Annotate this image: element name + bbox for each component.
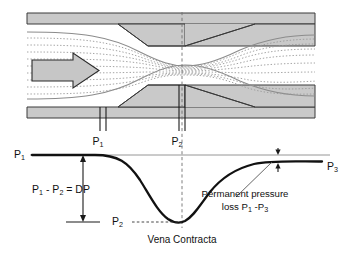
- axis-label-p2: P2: [112, 215, 123, 229]
- delta-p-label: P1 - P2 = DP: [32, 183, 90, 197]
- permanent-loss-dimension: [275, 148, 280, 172]
- flow-direction-arrow: [32, 53, 99, 88]
- tap-label-p1: P1: [92, 135, 103, 149]
- pressure-profile-plot: P1 P1 - P2 = DP P2 P3 Vena Contracta Per…: [14, 148, 338, 245]
- permanent-loss-label-line2: loss P1 -P3: [222, 201, 268, 214]
- pipe-wall-bottom-outer: [27, 107, 315, 118]
- pipe-wall-top-outer: [27, 13, 315, 24]
- axis-label-p3: P3: [327, 160, 338, 174]
- nozzle-top-converging: [118, 24, 185, 46]
- tap-label-p2: P2: [171, 135, 182, 149]
- venturi-figure-svg: P1 P2 P1 P1 - P2 = DP P2 P3 Vena Contrac…: [0, 0, 345, 255]
- permanent-loss-label-line1: Permanent pressure: [202, 188, 289, 199]
- nozzle-bottom-converging: [118, 85, 185, 107]
- pipe-cross-section: P1 P2: [27, 13, 318, 149]
- figure-root: P1 P2 P1 P1 - P2 = DP P2 P3 Vena Contrac…: [0, 0, 345, 255]
- axis-label-p1: P1: [14, 148, 25, 162]
- vena-contracta-label: Vena Contracta: [148, 234, 217, 245]
